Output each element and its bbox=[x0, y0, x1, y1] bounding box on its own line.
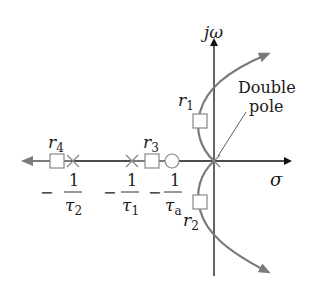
svg-text:τ2: τ2 bbox=[65, 195, 82, 218]
svg-text:−: − bbox=[103, 183, 116, 202]
double-pole-label-line2: pole bbox=[249, 97, 283, 116]
double-pole-label-line1: Double bbox=[238, 78, 296, 97]
svg-text:τa: τa bbox=[165, 195, 182, 218]
svg-text:τ1: τ1 bbox=[122, 195, 139, 218]
zero-label-tau-a: − 1 τa bbox=[148, 171, 182, 218]
svg-text:−: − bbox=[148, 183, 161, 202]
svg-text:1: 1 bbox=[69, 171, 79, 190]
pole-label-tau1: − 1 τ1 bbox=[103, 171, 139, 218]
root-r4-label: r4 bbox=[48, 132, 64, 155]
svg-text:−: − bbox=[40, 183, 53, 202]
root-r2-label: r2 bbox=[183, 210, 199, 233]
svg-text:1: 1 bbox=[127, 171, 137, 190]
root-r3-label: r3 bbox=[143, 132, 159, 155]
real-axis-label: σ bbox=[270, 169, 283, 190]
root-locus-diagram: jω σ Double pole r1 r2 r3 r4 − 1 τ2 − 1 … bbox=[0, 0, 314, 296]
root-r3-marker bbox=[145, 154, 159, 168]
imaginary-axis-label: jω bbox=[200, 22, 223, 42]
double-pole-leader bbox=[218, 112, 246, 156]
zero-marker bbox=[165, 154, 179, 168]
root-r1-label: r1 bbox=[178, 90, 194, 113]
root-r1-marker bbox=[193, 114, 207, 128]
root-r2-marker bbox=[193, 195, 207, 209]
pole-label-tau2: − 1 τ2 bbox=[40, 171, 82, 218]
root-r4-marker bbox=[50, 154, 64, 168]
locus-lower-branch bbox=[198, 161, 268, 272]
svg-text:1: 1 bbox=[170, 171, 180, 190]
